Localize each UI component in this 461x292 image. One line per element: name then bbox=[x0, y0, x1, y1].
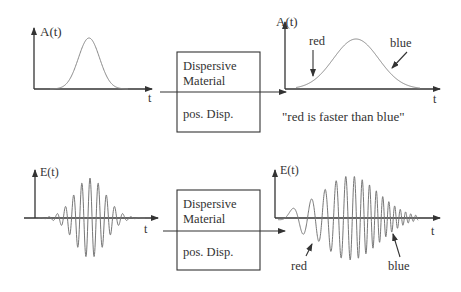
bottom-dispersive-material-box: Dispersive Material pos. Disp. bbox=[163, 190, 285, 270]
blue-label: blue bbox=[388, 259, 410, 273]
red-pointer-arrow bbox=[306, 244, 312, 256]
box-label-line1: Dispersive bbox=[183, 197, 237, 211]
top-dispersive-material-box: Dispersive Material pos. Disp. bbox=[160, 52, 286, 132]
box-label-line1: Dispersive bbox=[183, 59, 237, 73]
box-label-line3: pos. Disp. bbox=[183, 107, 233, 121]
x-axis-label: t bbox=[148, 91, 152, 105]
top-left-envelope-plot: A(t) t bbox=[34, 24, 152, 105]
wave-packet bbox=[38, 178, 145, 257]
gaussian-envelope bbox=[50, 38, 128, 89]
blue-label: blue bbox=[390, 36, 412, 50]
x-axis-label: t bbox=[433, 92, 437, 106]
box-label-line3: pos. Disp. bbox=[183, 245, 233, 259]
y-axis-label: E(t) bbox=[40, 165, 59, 179]
dispersion-diagram: A(t) t Dispersive Material pos. Disp. A(… bbox=[0, 0, 461, 292]
y-axis-label: A(t) bbox=[276, 14, 298, 29]
red-label: red bbox=[291, 259, 308, 273]
blue-pointer-arrow bbox=[393, 234, 400, 257]
top-right-envelope-plot: A(t) t red blue "red is faster than blue… bbox=[276, 14, 440, 124]
blue-pointer-arrow bbox=[392, 52, 407, 68]
bottom-right-chirped-plot: E(t) t red blue bbox=[275, 163, 440, 273]
y-axis-label: A(t) bbox=[40, 24, 62, 39]
red-label: red bbox=[309, 34, 326, 48]
x-axis-label: t bbox=[431, 224, 435, 238]
bottom-left-field-plot: E(t) t bbox=[24, 165, 158, 257]
caption: "red is faster than blue" bbox=[282, 109, 405, 124]
box-label-line2: Material bbox=[183, 212, 226, 226]
x-axis-label: t bbox=[144, 222, 148, 236]
box-label-line2: Material bbox=[183, 74, 226, 88]
y-axis-label: E(t) bbox=[280, 163, 299, 177]
